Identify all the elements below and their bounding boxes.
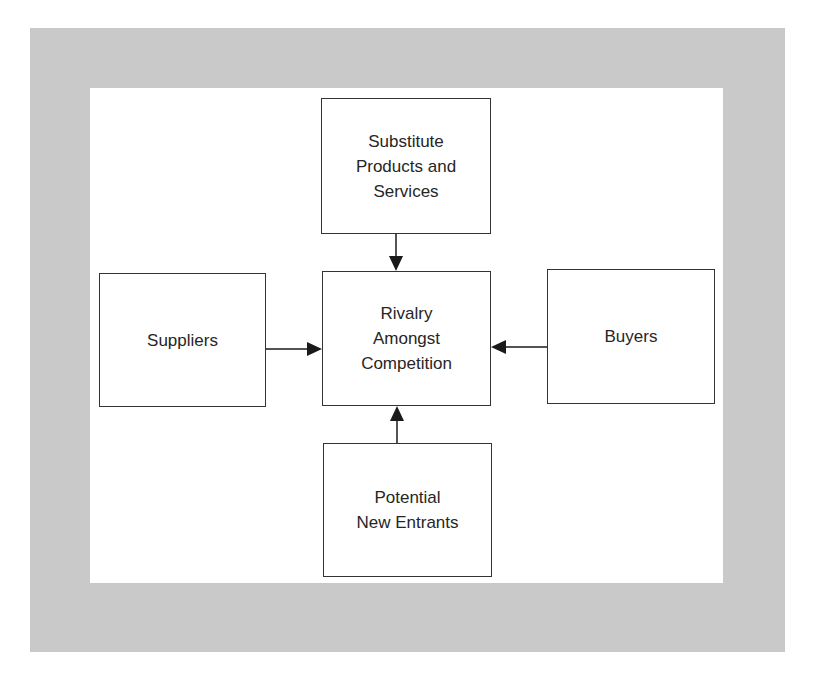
node-label-line: Suppliers <box>147 328 218 353</box>
node-label-line: New Entrants <box>356 510 458 535</box>
node-label-line: Products and <box>356 154 456 179</box>
node-suppliers: Suppliers <box>99 273 266 407</box>
node-label-line: Amongst <box>361 326 452 351</box>
node-rivalry: Rivalry Amongst Competition <box>322 271 491 406</box>
node-label-line: Buyers <box>605 324 658 349</box>
node-new-entrants: Potential New Entrants <box>323 443 492 577</box>
node-label-line: Competition <box>361 351 452 376</box>
node-label-line: Rivalry <box>361 301 452 326</box>
node-label-line: Services <box>356 179 456 204</box>
node-label-line: Potential <box>356 485 458 510</box>
node-buyers: Buyers <box>547 269 715 404</box>
node-label-line: Substitute <box>356 129 456 154</box>
node-substitutes: Substitute Products and Services <box>321 98 491 234</box>
